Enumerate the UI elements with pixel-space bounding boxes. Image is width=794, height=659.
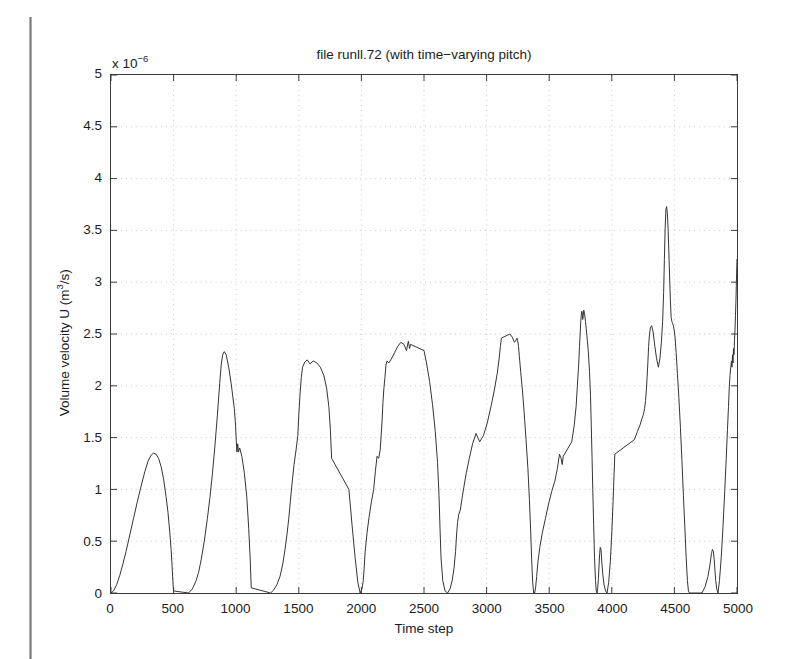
- x-tick-label: 1500: [283, 602, 313, 616]
- y-axis-label-text: Volume velocity U (m: [57, 290, 72, 417]
- y-tick-label: 2: [54, 379, 102, 393]
- x-tick-label: 4000: [597, 602, 627, 616]
- x-tick-label: 3500: [535, 602, 565, 616]
- x-tick-label: 500: [162, 602, 185, 616]
- x-tick-label: 0: [106, 602, 114, 616]
- chart-figure: x 10−6 file runll.72 (with time−varying …: [0, 0, 794, 659]
- y-tick-label: 4.5: [54, 119, 102, 133]
- x-tick-label: 3000: [472, 602, 502, 616]
- y-axis-label: Volume velocity U (m3/s): [54, 218, 72, 468]
- x-tick-label: 5000: [723, 602, 753, 616]
- y-tick-label: 3.5: [54, 223, 102, 237]
- x-tick-label: 4500: [660, 602, 690, 616]
- y-tick-label: 2.5: [54, 327, 102, 341]
- y-tick-label: 0: [54, 587, 102, 601]
- plot-area: [110, 74, 738, 594]
- y-tick-label: 1.5: [54, 431, 102, 445]
- y-tick-label: 3: [54, 275, 102, 289]
- y-tick-label: 5: [54, 67, 102, 81]
- y-tick-label: 0.5: [54, 535, 102, 549]
- chart-title: file runll.72 (with time−varying pitch): [110, 47, 738, 62]
- y-tick-label: 4: [54, 171, 102, 185]
- y-tick-label: 1: [54, 483, 102, 497]
- x-tick-label: 2000: [346, 602, 376, 616]
- x-tick-label: 2500: [409, 602, 439, 616]
- data-series-line: [111, 75, 737, 593]
- x-tick-label: 1000: [221, 602, 251, 616]
- x-axis-label: Time step: [110, 621, 738, 636]
